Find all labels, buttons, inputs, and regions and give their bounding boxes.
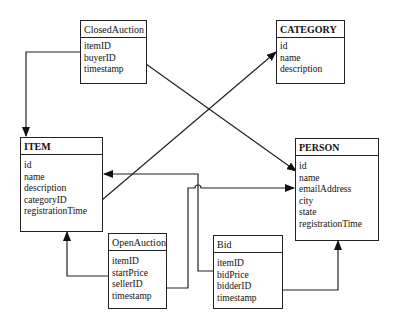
entity-attributes: itemID startPrice sellerID timestamp: [109, 251, 166, 304]
attribute: timestamp: [84, 64, 143, 76]
attribute: id: [299, 161, 375, 173]
entity-attributes: id name emailAddress city state registra…: [296, 156, 378, 233]
connector-closedauction-item: [26, 52, 80, 136]
entity-open-auction: OpenAuction itemID startPrice sellerID t…: [108, 233, 167, 309]
entity-title: OpenAuction: [109, 234, 166, 251]
connector-bid-person: [282, 241, 338, 290]
er-diagram: ClosedAuction itemID buyerID timestamp C…: [0, 0, 395, 325]
attribute: itemID: [112, 256, 163, 268]
entity-bid: Bid itemID bidPrice bidderID timestamp: [213, 235, 283, 309]
entity-category: CATEGORY id name description: [276, 20, 345, 84]
attribute: state: [299, 207, 375, 219]
entity-attributes: id name description: [277, 38, 344, 78]
attribute: registrationTime: [299, 219, 375, 231]
attribute: description: [24, 183, 99, 195]
attribute: id: [24, 160, 99, 172]
entity-attributes: itemID bidPrice bidderID timestamp: [214, 253, 282, 306]
entity-closed-auction: ClosedAuction itemID buyerID timestamp: [80, 20, 147, 84]
connector-closedauction-person: [146, 64, 296, 171]
attribute: city: [299, 196, 375, 208]
entity-title: PERSON: [296, 139, 378, 156]
attribute: id: [280, 41, 341, 53]
attribute: bidPrice: [217, 270, 279, 282]
attribute: timestamp: [217, 293, 279, 305]
attribute: categoryID: [24, 195, 99, 207]
attribute: emailAddress: [299, 184, 375, 196]
attribute: startPrice: [112, 268, 163, 280]
attribute: itemID: [217, 258, 279, 270]
attribute: bidderID: [217, 281, 279, 293]
attribute: description: [280, 64, 341, 76]
attribute: name: [299, 173, 375, 185]
entity-attributes: itemID buyerID timestamp: [81, 38, 146, 78]
attribute: name: [24, 172, 99, 184]
attribute: timestamp: [112, 291, 163, 303]
attribute: name: [280, 53, 341, 65]
attribute: buyerID: [84, 53, 143, 65]
attribute: registrationTime: [24, 206, 99, 218]
entity-title: Bid: [214, 236, 282, 253]
attribute: itemID: [84, 41, 143, 53]
entity-item: ITEM id name description categoryID regi…: [20, 137, 103, 232]
entity-person: PERSON id name emailAddress city state r…: [295, 138, 379, 241]
entity-title: ClosedAuction: [81, 21, 146, 38]
entity-title: CATEGORY: [277, 21, 344, 38]
entity-title: ITEM: [21, 138, 102, 155]
entity-attributes: id name description categoryID registrat…: [21, 155, 102, 220]
attribute: sellerID: [112, 279, 163, 291]
connector-openauction-item: [67, 232, 108, 276]
